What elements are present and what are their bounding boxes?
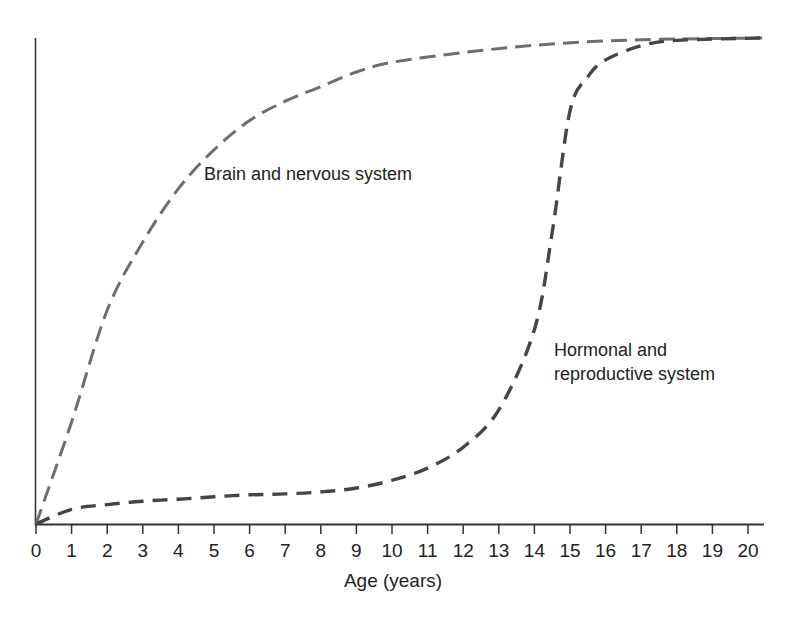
hormonal-curve-label-line1: Hormonal and [554, 340, 667, 360]
growth-chart: 01234567891011121314151617181920 Age (ye… [0, 0, 787, 619]
x-tick-label: 4 [173, 540, 184, 561]
x-tick-label: 11 [418, 540, 438, 561]
x-tick-label: 6 [244, 540, 255, 561]
brain-curve-label: Brain and nervous system [204, 164, 412, 184]
x-tick-label: 9 [351, 540, 362, 561]
x-tick-label: 13 [488, 540, 509, 561]
x-tick-label: 18 [666, 540, 687, 561]
hormonal-curve-label-line2: reproductive system [554, 364, 715, 384]
hormonal-reproductive-system-curve [36, 38, 762, 524]
x-tick-label: 10 [381, 540, 402, 561]
x-tick-label: 20 [737, 540, 758, 561]
x-tick-label: 7 [280, 540, 291, 561]
x-tick-label: 15 [559, 540, 580, 561]
x-tick-label: 14 [524, 540, 546, 561]
x-ticks: 01234567891011121314151617181920 [31, 524, 759, 561]
x-tick-label: 17 [631, 540, 652, 561]
x-tick-label: 3 [138, 540, 149, 561]
x-axis: 01234567891011121314151617181920 [31, 524, 764, 561]
x-axis-title: Age (years) [344, 570, 442, 591]
x-tick-label: 2 [102, 540, 113, 561]
x-tick-label: 12 [453, 540, 474, 561]
series-layer [36, 38, 762, 524]
x-tick-label: 0 [31, 540, 42, 561]
x-tick-label: 19 [702, 540, 723, 561]
x-tick-label: 1 [66, 540, 77, 561]
brain-nervous-system-curve [36, 38, 762, 524]
x-tick-label: 16 [595, 540, 616, 561]
x-tick-label: 5 [209, 540, 220, 561]
x-tick-label: 8 [316, 540, 327, 561]
